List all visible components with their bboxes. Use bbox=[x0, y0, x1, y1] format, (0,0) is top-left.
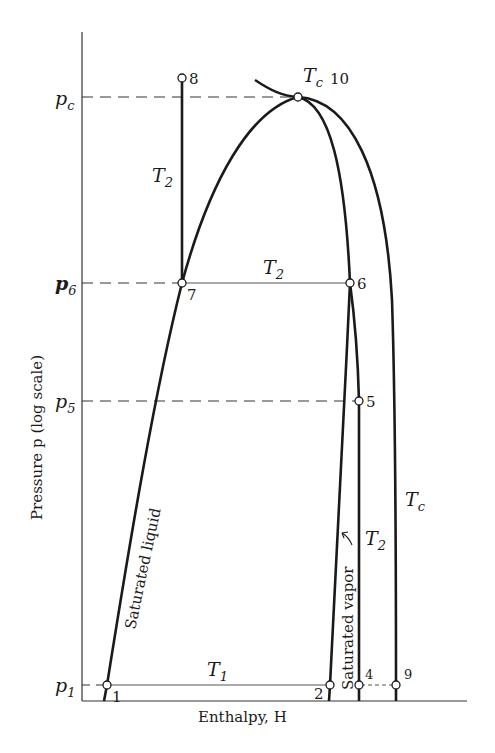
point-label-2: 2 bbox=[314, 685, 324, 703]
tc-label-top: Tc bbox=[303, 64, 324, 90]
point-label-9: 9 bbox=[404, 667, 412, 682]
state-point-8 bbox=[178, 74, 186, 82]
saturated-liquid-label: Saturated liquid bbox=[121, 506, 164, 631]
x-axis-label: Enthalpy, H bbox=[198, 708, 287, 726]
svg-text:Tc: Tc bbox=[303, 64, 324, 90]
pressure-label-p6: p6 bbox=[55, 272, 77, 298]
t1-label-horizontal: T1 bbox=[207, 658, 228, 684]
pressure-enthalpy-diagram: 8 10 7 6 5 1 2 4 9 pc p6 p5 p1 Tc T2 T2 … bbox=[0, 0, 495, 753]
point-label-5: 5 bbox=[366, 393, 376, 411]
y-axis-label: Pressure p (log scale) bbox=[28, 355, 46, 520]
state-point-7 bbox=[178, 279, 186, 287]
svg-text:Tc: Tc bbox=[405, 488, 426, 514]
svg-text:T2: T2 bbox=[365, 527, 386, 553]
pressure-label-p5: p5 bbox=[55, 390, 75, 416]
point-label-7: 7 bbox=[187, 286, 197, 304]
point-label-1: 1 bbox=[112, 688, 122, 706]
svg-text:p5: p5 bbox=[55, 390, 75, 416]
state-point-5 bbox=[355, 397, 363, 405]
pressure-label-p1: p1 bbox=[55, 674, 75, 700]
svg-text:pc: pc bbox=[55, 87, 75, 113]
svg-text:T2: T2 bbox=[263, 256, 284, 282]
t2-label-vertical: T2 bbox=[152, 164, 173, 190]
t2-label-right: T2 bbox=[365, 527, 386, 553]
point-label-8: 8 bbox=[189, 70, 199, 88]
svg-text:p6: p6 bbox=[55, 272, 77, 298]
critical-isotherm-left-tail bbox=[255, 80, 298, 97]
state-point-10 bbox=[294, 93, 302, 101]
tc-label-right: Tc bbox=[405, 488, 426, 514]
pressure-label-pc: pc bbox=[55, 87, 75, 113]
saturated-vapor-label: Saturated vapor bbox=[339, 566, 357, 690]
state-point-1 bbox=[103, 681, 111, 689]
t2-label-horizontal: T2 bbox=[263, 256, 284, 282]
saturated-vapor-arrow bbox=[342, 533, 352, 545]
state-point-2 bbox=[326, 681, 334, 689]
point-label-6: 6 bbox=[357, 275, 367, 293]
state-point-6 bbox=[346, 279, 354, 287]
point-label-10: 10 bbox=[330, 70, 349, 88]
svg-text:T2: T2 bbox=[152, 164, 173, 190]
svg-text:p1: p1 bbox=[55, 674, 75, 700]
state-point-9 bbox=[392, 681, 400, 689]
point-label-4: 4 bbox=[365, 667, 373, 682]
svg-text:T1: T1 bbox=[207, 658, 228, 684]
